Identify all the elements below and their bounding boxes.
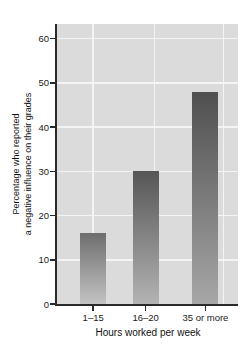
gridline-vertical: [223, 24, 225, 304]
x-axis-title: Hours worked per week: [58, 327, 238, 339]
y-tick-label: 50: [0, 77, 49, 88]
x-tick-label: 16–20: [114, 312, 178, 324]
plot-area-inner: [57, 24, 238, 304]
bar-35 or more: [192, 92, 218, 304]
y-tick-mark: [50, 126, 55, 128]
x-tick-mark: [205, 306, 207, 311]
x-tick-mark: [145, 306, 147, 311]
bar-16–20: [133, 171, 159, 304]
gridline-horizontal: [57, 82, 238, 84]
plot-area: [55, 24, 238, 306]
y-tick-label: 0: [0, 299, 49, 310]
y-tick-mark: [50, 215, 55, 217]
y-tick-mark: [50, 171, 55, 173]
bar-chart-figure: Percentage who reporteda negative influe…: [0, 0, 242, 344]
bar-1–15: [80, 233, 106, 304]
y-tick-mark: [50, 38, 55, 40]
x-tick-label: 35 or more: [173, 312, 237, 324]
gridline-horizontal: [57, 38, 238, 40]
y-tick-mark: [50, 303, 55, 305]
y-tick-label: 60: [0, 33, 49, 44]
y-tick-label: 30: [0, 166, 49, 177]
y-tick-label: 10: [0, 254, 49, 265]
y-tick-mark: [50, 259, 55, 261]
y-tick-mark: [50, 82, 55, 84]
x-tick-mark: [92, 306, 94, 311]
y-tick-label: 40: [0, 122, 49, 133]
y-tick-label: 20: [0, 210, 49, 221]
